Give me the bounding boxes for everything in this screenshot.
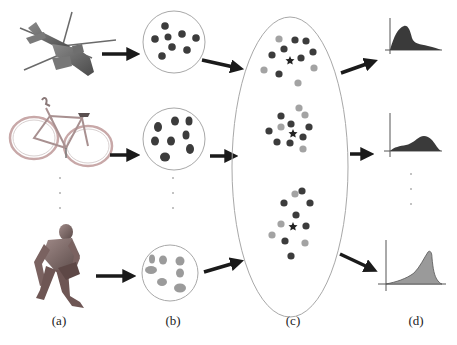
arrows-a-to-b (96, 54, 134, 276)
caption-a: (a) (44, 313, 74, 329)
distribution-1 (385, 18, 442, 54)
caption-c: (c) (278, 313, 308, 329)
feature-set-bicycle (143, 108, 205, 170)
cluster-3 (268, 187, 313, 259)
cluster-3-center-star-icon (289, 222, 298, 231)
cluster-2-center-star-icon (289, 129, 298, 138)
arrows-b-to-c (202, 60, 238, 272)
distribution-2 (384, 113, 442, 157)
cluster-1-center-star-icon (286, 56, 295, 65)
caption-b: (b) (158, 313, 188, 329)
feature-set-human (142, 245, 198, 301)
feature-set-helicopter (143, 11, 205, 73)
cluster-space (232, 17, 348, 317)
arrows-c-to-d (340, 62, 372, 269)
distribution-3 (378, 240, 446, 291)
human-model (34, 224, 84, 308)
column-a-ellipsis (59, 177, 61, 209)
helicopter-model (20, 12, 116, 76)
pipeline-diagram (0, 0, 457, 345)
column-d-ellipsis (410, 173, 412, 205)
column-b-ellipsis (172, 177, 174, 209)
caption-d: (d) (401, 313, 431, 329)
bicycle-model (10, 98, 112, 166)
cluster-1 (260, 35, 317, 86)
cluster-2 (265, 104, 312, 152)
